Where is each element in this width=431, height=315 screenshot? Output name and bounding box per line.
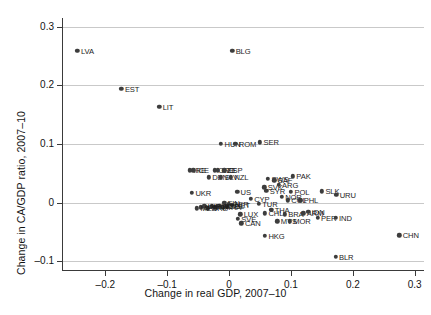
scatter-chart-figure: LVABLGESTLITHUNROMSERIREICECROCZEESPDENS… <box>0 0 431 315</box>
gridline-y <box>62 27 424 28</box>
x-tick-label: 0 <box>204 279 254 290</box>
gridline-y <box>62 85 424 86</box>
scatter-point-label: ROM <box>239 140 256 149</box>
scatter-point-label: MOR <box>293 217 310 226</box>
scatter-point-label: URU <box>340 190 356 199</box>
scatter-point <box>157 105 161 109</box>
x-tick-mark <box>415 271 416 276</box>
scatter-point-label: MEX <box>200 204 216 213</box>
scatter-point <box>333 254 337 258</box>
scatter-point <box>315 216 319 220</box>
scatter-point <box>195 206 199 210</box>
scatter-point-label: LIT <box>163 103 174 112</box>
x-tick-mark <box>105 271 106 276</box>
y-tick-label: 0.2 <box>20 79 54 90</box>
scatter-point <box>283 212 287 216</box>
scatter-point <box>333 216 337 220</box>
scatter-point-label: NZL <box>234 173 248 182</box>
x-tick-mark <box>167 271 168 276</box>
scatter-point <box>263 211 267 215</box>
scatter-point <box>235 190 239 194</box>
scatter-point-label: PHL <box>304 196 318 205</box>
y-axis-title: Change in CA/GDP ratio, 2007–10 <box>15 111 27 275</box>
scatter-point-label: BLG <box>236 46 251 55</box>
plot-area: LVABLGESTLITHUNROMSERIREICECROCZEESPDENS… <box>62 18 424 270</box>
x-tick-mark <box>353 271 354 276</box>
scatter-point <box>291 174 295 178</box>
x-tick-mark <box>229 271 230 276</box>
x-tick-label: 0.2 <box>328 279 378 290</box>
scatter-point-label: EST <box>125 84 139 93</box>
scatter-point-label: HKG <box>268 232 284 241</box>
x-tick-label: –0.1 <box>142 279 192 290</box>
scatter-point-label: ICE <box>197 166 209 175</box>
scatter-point-label: SER <box>264 138 279 147</box>
scatter-point <box>206 175 210 179</box>
scatter-point <box>275 219 279 223</box>
scatter-point <box>279 195 283 199</box>
scatter-point <box>257 202 261 206</box>
scatter-point <box>320 189 324 193</box>
scatter-point-label: IND <box>339 213 352 222</box>
scatter-point-label: UKR <box>195 188 211 197</box>
scatter-point-label: LVA <box>81 46 94 55</box>
x-axis-spine <box>62 270 424 271</box>
scatter-point <box>239 221 243 225</box>
y-tick-label: –0.1 <box>20 255 54 266</box>
scatter-point <box>334 193 338 197</box>
scatter-point-label: CAN <box>245 219 261 228</box>
scatter-point <box>190 190 194 194</box>
x-tick-label: –0.2 <box>80 279 130 290</box>
y-tick-label: 0.3 <box>20 21 54 32</box>
scatter-point <box>75 49 79 53</box>
scatter-point-label: BLR <box>339 252 353 261</box>
scatter-point <box>264 189 268 193</box>
x-tick-mark <box>291 271 292 276</box>
scatter-point-label: PAK <box>296 172 310 181</box>
y-tick-label: 0.1 <box>20 138 54 149</box>
scatter-point <box>230 49 234 53</box>
gridline-y <box>62 261 424 262</box>
y-axis-spine <box>62 18 63 270</box>
scatter-point-label: US <box>241 188 251 197</box>
scatter-point <box>266 176 270 180</box>
scatter-point <box>219 142 223 146</box>
scatter-point <box>301 211 305 215</box>
x-tick-label: 0.3 <box>390 279 431 290</box>
scatter-point <box>263 234 267 238</box>
scatter-point <box>119 87 123 91</box>
scatter-point <box>397 233 401 237</box>
scatter-point-label: CHN <box>403 231 419 240</box>
y-tick-label: 0 <box>20 197 54 208</box>
x-tick-label: 0.1 <box>266 279 316 290</box>
